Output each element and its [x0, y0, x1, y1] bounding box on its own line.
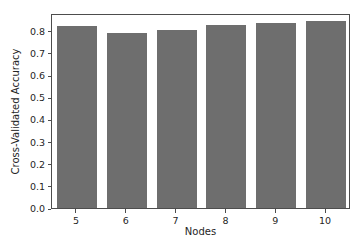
bar: [206, 25, 246, 208]
y-tick-label: 0.5: [30, 91, 45, 105]
x-axis-title: Nodes: [51, 226, 350, 237]
x-tick-mark: [125, 209, 126, 213]
x-tick-mark: [275, 209, 276, 213]
y-tick-label: 0.4: [30, 113, 45, 127]
y-axis-ticks: 0.00.10.20.30.40.50.60.70.8: [0, 0, 51, 247]
bar-series: [52, 15, 349, 208]
y-tick-label: 0.0: [30, 202, 45, 216]
y-tick-label: 0.2: [30, 158, 45, 172]
x-tick-mark: [175, 209, 176, 213]
y-tick-label: 0.6: [30, 69, 45, 83]
bar: [256, 23, 296, 208]
x-tick-mark: [75, 209, 76, 213]
bar: [107, 33, 147, 208]
x-tick-mark: [225, 209, 226, 213]
bar: [157, 30, 197, 208]
y-tick-label: 0.8: [30, 25, 45, 39]
bar: [306, 21, 346, 208]
plot-area: [51, 14, 350, 209]
y-tick-label: 0.3: [30, 136, 45, 150]
bar: [57, 26, 97, 208]
bar-chart-figure: Cross-Validated Accuracy 0.00.10.20.30.4…: [0, 0, 364, 247]
y-tick-label: 0.1: [30, 180, 45, 194]
x-tick-mark: [325, 209, 326, 213]
y-tick-label: 0.7: [30, 47, 45, 61]
